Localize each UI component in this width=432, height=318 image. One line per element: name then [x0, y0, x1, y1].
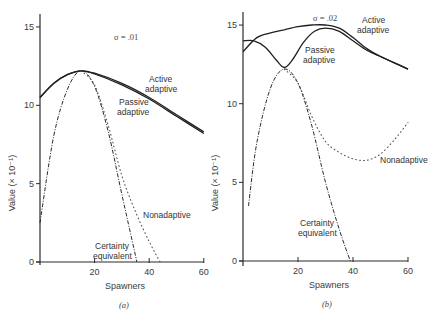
x-tick-label: 40 [144, 267, 154, 277]
panel-a-caption: (a) [119, 300, 129, 310]
panel-b-x-ticks: 204060 [293, 257, 413, 276]
panel-b-certainty-label-2: equivalent [298, 228, 337, 238]
panel-b-y-ticks: 051015 [227, 20, 243, 266]
x-tick-label: 60 [403, 266, 413, 276]
y-tick-label: 5 [232, 177, 237, 187]
panel-b: 051015 204060 σ = .02 Active adaptive Pa… [210, 12, 428, 309]
x-tick-label: 40 [348, 266, 358, 276]
panel-b-caption: (b) [322, 299, 332, 309]
y-tick-label: 0 [232, 256, 237, 266]
panel-a-ylabel: Value (× 10⁻¹) [7, 155, 17, 212]
panel-b-passive-label-2: adaptive [303, 55, 335, 65]
panel-a-active-label-1: Active [149, 74, 172, 84]
figure: 051015 204060 σ = .01 Active adaptive Pa… [0, 0, 432, 318]
panel-b-certainty-label-1: Certainty [300, 218, 335, 228]
panel-b-ylabel: Value (× 10⁻¹) [210, 155, 220, 212]
y-tick-label: 15 [227, 20, 237, 30]
y-tick-label: 5 [29, 179, 34, 189]
panel-a-nonadaptive-label: Nonadaptive [143, 210, 191, 220]
panel-b-nonadaptive-label: Nonadaptive [380, 155, 428, 165]
panel-a: 051015 204060 σ = .01 Active adaptive Pa… [7, 14, 209, 310]
y-tick-label: 10 [227, 99, 237, 109]
panel-a-passive-label-2: adaptive [117, 107, 149, 117]
x-tick-label: 60 [199, 267, 209, 277]
panel-a-y-ticks: 051015 [24, 22, 40, 267]
y-tick-label: 15 [24, 22, 34, 32]
nonadaptive-curve [284, 69, 408, 160]
panel-b-sigma-label: σ = .02 [313, 13, 337, 23]
panel-a-certainty-label-1: Certainty [95, 241, 130, 251]
panel-a-active-label-2: adaptive [145, 84, 177, 94]
y-tick-label: 0 [29, 257, 34, 267]
panel-b-xlabel: Spawners [309, 280, 350, 290]
panel-a-passive-label-1: Passive [119, 97, 149, 107]
panel-a-certainty-label-2: equivalent [93, 251, 132, 261]
panel-b-passive-label-1: Passive [305, 45, 335, 55]
x-tick-label: 20 [90, 267, 100, 277]
panel-b-active-label-1: Active [362, 15, 385, 25]
y-tick-label: 10 [24, 100, 34, 110]
panel-b-active-label-2: adaptive [357, 25, 389, 35]
panel-a-xlabel: Spawners [105, 281, 146, 291]
x-tick-label: 20 [293, 266, 303, 276]
panel-a-sigma-label: σ = .01 [114, 32, 138, 42]
